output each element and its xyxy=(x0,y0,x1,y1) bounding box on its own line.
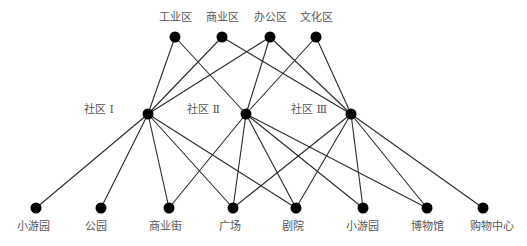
network-diagram: 工业区 商业区 办公区 文化区 社区 Ⅰ 社区 Ⅱ 社区 Ⅲ 小游园 公园 商业… xyxy=(0,0,527,246)
node-t2 xyxy=(217,32,228,43)
node-b2 xyxy=(96,203,107,214)
node-b3 xyxy=(164,203,175,214)
label-shopping-center: 购物中心 xyxy=(470,221,514,233)
label-industrial-zone: 工业区 xyxy=(159,12,192,24)
node-b5 xyxy=(291,203,302,214)
label-plaza: 广场 xyxy=(219,221,241,233)
label-commercial-zone: 商业区 xyxy=(206,12,239,24)
node-t4 xyxy=(311,32,322,43)
label-commercial-street: 商业街 xyxy=(149,221,182,233)
nodes-layer xyxy=(0,0,527,246)
node-m3 xyxy=(346,109,357,120)
label-community-3: 社区 Ⅲ xyxy=(291,104,327,116)
label-museum: 博物馆 xyxy=(411,221,444,233)
label-small-park-1: 小游园 xyxy=(17,221,50,233)
label-community-2: 社区 Ⅱ xyxy=(187,104,220,116)
label-park: 公园 xyxy=(85,221,107,233)
node-m1 xyxy=(143,109,154,120)
node-m2 xyxy=(241,109,252,120)
node-b1 xyxy=(31,203,42,214)
node-b4 xyxy=(228,203,239,214)
label-community-1: 社区 Ⅰ xyxy=(84,104,114,116)
node-b6 xyxy=(358,203,369,214)
node-b7 xyxy=(422,203,433,214)
node-t3 xyxy=(265,32,276,43)
label-small-park-2: 小游园 xyxy=(346,221,379,233)
node-b8 xyxy=(478,203,489,214)
node-t1 xyxy=(170,32,181,43)
label-office-zone: 办公区 xyxy=(254,12,287,24)
label-cultural-zone: 文化区 xyxy=(300,12,333,24)
label-theater: 剧院 xyxy=(282,221,304,233)
